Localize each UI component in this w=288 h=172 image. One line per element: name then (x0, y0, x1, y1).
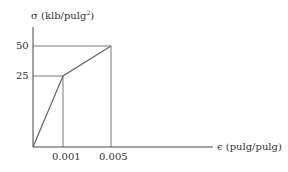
x-tick-0005: 0.005 (99, 151, 128, 162)
y-axis-label-text: σ (klb/pulg (31, 10, 86, 21)
x-axis-label: ϵ (pulg/pulg) (217, 141, 282, 152)
y-tick-50: 50 (16, 40, 29, 51)
y-tick-25: 25 (16, 70, 29, 81)
y-axis-label: σ (klb/pulg2) (31, 9, 94, 21)
y-axis-label-end: ) (90, 10, 94, 21)
x-tick-0001: 0.001 (52, 151, 81, 162)
stress-strain-curve (33, 46, 111, 147)
